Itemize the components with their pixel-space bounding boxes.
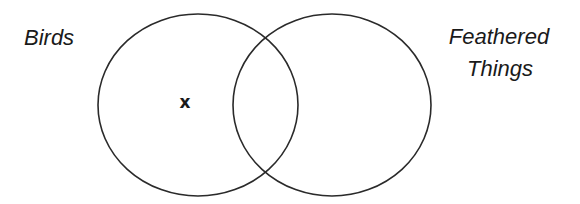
feathered-label-line1: Feathered [449, 24, 550, 49]
feathered-things-circle [233, 14, 431, 196]
feathered-label-line2: Things [467, 56, 533, 81]
x-marker: x [180, 92, 191, 112]
venn-diagram: Birds Feathered Things x [0, 0, 580, 204]
birds-circle [98, 14, 298, 196]
birds-label: Birds [24, 25, 74, 50]
venn-svg: Birds Feathered Things x [0, 0, 580, 204]
